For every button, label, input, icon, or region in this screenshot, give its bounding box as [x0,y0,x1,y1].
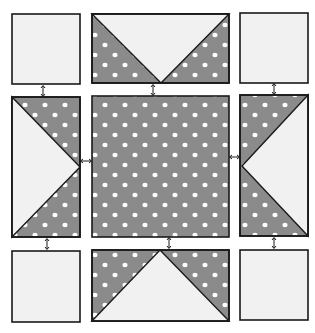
join-arrow-icon [81,159,92,163]
unit-bottom-left [12,251,80,322]
join-arrow-icon [41,86,45,97]
join-arrow-icon [151,85,155,96]
join-arrow-icon [45,239,49,250]
unit-top-left [12,14,80,84]
join-arrow-icon [167,238,171,249]
quilt-block-diagram [0,0,315,333]
unit-bottom-right [240,250,308,320]
join-arrow-icon [230,155,240,159]
unit-top-center [92,14,229,83]
unit-middle-left [12,97,80,237]
unit-center [92,96,229,237]
unit-top-right [240,13,308,83]
unit-bottom-center [92,250,229,321]
join-arrow-icon [272,238,276,249]
unit-middle-right [240,95,308,236]
join-arrow-icon [272,84,276,95]
